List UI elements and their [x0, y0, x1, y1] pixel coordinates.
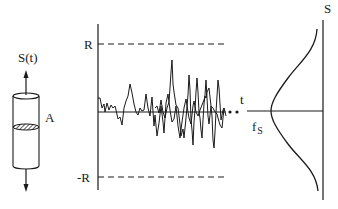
- up-arrow-icon: [24, 70, 29, 95]
- s-axis-label: S: [324, 1, 331, 16]
- signal-plot: R -R t: [77, 24, 244, 190]
- cross-section-hatched: [13, 124, 39, 130]
- load-label: S(t): [18, 50, 38, 65]
- area-label: A: [45, 110, 55, 125]
- lower-bound-label: -R: [77, 170, 90, 185]
- upper-bound-label: R: [84, 37, 93, 52]
- density-label-subscript: S: [257, 125, 263, 136]
- density-label: fS: [252, 119, 263, 136]
- down-arrow-icon: [24, 169, 29, 192]
- random-load-diagram: S(t) A R -R: [0, 0, 338, 209]
- density-label-f: f: [252, 119, 257, 134]
- continuation-dots: [228, 110, 238, 113]
- probability-density-curve: [271, 29, 318, 191]
- distribution-plot: S fS: [247, 1, 331, 200]
- time-axis-label: t: [240, 92, 244, 107]
- random-signal-trace-dense: [155, 60, 224, 148]
- cylinder-member: S(t) A: [13, 50, 55, 192]
- cylinder-body: [13, 93, 39, 169]
